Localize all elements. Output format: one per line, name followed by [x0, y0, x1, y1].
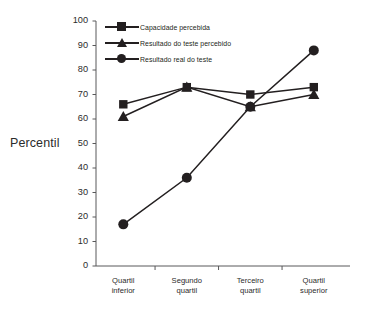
y-tick-label: 10	[62, 237, 88, 246]
chart-figure: Percentil Capacidade percebidaResultado …	[0, 0, 365, 313]
x-tick-label-line: Quartil	[282, 276, 346, 286]
legend-key	[104, 36, 140, 50]
x-tick-label: Quartilinferior	[91, 276, 155, 297]
data-point-marker	[245, 102, 255, 112]
series-line	[123, 50, 314, 224]
data-point-marker	[119, 100, 127, 108]
x-tick-label: Segundoquartil	[155, 276, 219, 297]
x-tick-label-line: Quartil	[91, 276, 155, 286]
legend-label: Resultado do teste percebido	[140, 40, 231, 47]
legend-key	[104, 52, 140, 66]
x-tick-label: Terceiroquartil	[218, 276, 282, 297]
x-tick-label-line: quartil	[155, 286, 219, 296]
legend-label: Capacidade percebida	[140, 24, 210, 31]
y-tick-label: 60	[62, 114, 88, 123]
x-tick-label-line: Segundo	[155, 276, 219, 286]
x-tick-label-line: quartil	[218, 286, 282, 296]
data-point-marker	[118, 111, 129, 121]
legend-label: Resultado real do teste	[140, 56, 212, 63]
data-point-marker	[246, 90, 254, 98]
triangle-marker-icon	[117, 38, 127, 47]
legend-item: Resultado do teste percebido	[104, 35, 279, 51]
x-tick-label-line: superior	[282, 286, 346, 296]
legend-item: Capacidade percebida	[104, 19, 279, 35]
y-tick-label: 70	[62, 90, 88, 99]
y-tick-label: 0	[62, 261, 88, 270]
x-tick-label-line: Terceiro	[218, 276, 282, 286]
legend-item: Resultado real do teste	[104, 51, 279, 67]
chart-legend: Capacidade percebidaResultado do teste p…	[104, 19, 279, 67]
y-tick-label: 100	[62, 16, 88, 25]
x-tick-label: Quartilsuperior	[282, 276, 346, 297]
x-tick-label-line: inferior	[91, 286, 155, 296]
y-tick-label: 90	[62, 41, 88, 50]
y-tick-label: 40	[62, 163, 88, 172]
y-tick-label: 80	[62, 65, 88, 74]
y-tick-label: 50	[62, 139, 88, 148]
square-marker-icon	[117, 22, 126, 31]
y-tick-label: 20	[62, 212, 88, 221]
data-point-marker	[309, 45, 319, 55]
y-tick-label: 30	[62, 188, 88, 197]
data-point-marker	[182, 173, 192, 183]
data-point-marker	[118, 219, 128, 229]
series-line	[123, 87, 314, 104]
legend-key	[104, 20, 140, 34]
circle-marker-icon	[117, 54, 126, 63]
